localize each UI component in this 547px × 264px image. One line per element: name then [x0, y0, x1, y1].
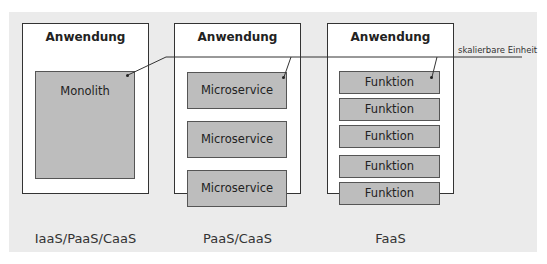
- scalable-unit-lines: [0, 0, 547, 264]
- connector-dot: [430, 76, 433, 79]
- connector-dot: [126, 74, 129, 77]
- connector-dot: [282, 76, 285, 79]
- scalable-unit-label: skalierbare Einheit: [458, 45, 537, 55]
